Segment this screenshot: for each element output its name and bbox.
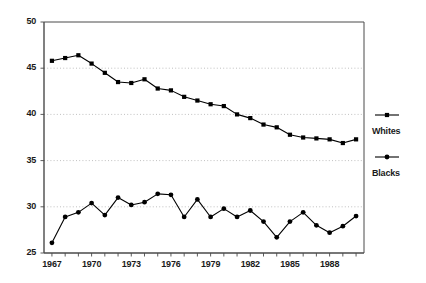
point-whites-1975 [156, 86, 160, 90]
point-blacks-1970 [89, 201, 94, 206]
point-whites-1970 [90, 61, 94, 65]
chart-figure: 253035404550 196719701973197619791982198… [0, 0, 426, 283]
y-axis-label-40: 40 [8, 108, 36, 118]
point-blacks-1982 [248, 208, 253, 213]
point-whites-1973 [129, 81, 133, 85]
point-whites-1972 [116, 80, 120, 84]
point-whites-1990 [354, 137, 358, 141]
point-blacks-1990 [354, 214, 359, 219]
x-axis-label-1973: 1973 [111, 259, 151, 269]
point-blacks-1977 [182, 215, 187, 220]
point-blacks-1968 [63, 215, 68, 220]
x-axis-label-1985: 1985 [270, 259, 310, 269]
point-whites-1982 [248, 116, 252, 120]
legend-label-whites: Whites [372, 126, 400, 136]
point-whites-1968 [63, 56, 67, 60]
point-whites-1974 [142, 77, 146, 81]
point-blacks-1979 [208, 215, 213, 220]
series-line-whites [50, 53, 358, 145]
point-whites-1989 [341, 141, 345, 145]
point-whites-1978 [195, 98, 199, 102]
point-whites-1980 [222, 104, 226, 108]
point-blacks-1971 [102, 213, 107, 218]
y-axis-label-45: 45 [8, 62, 36, 72]
point-blacks-1969 [76, 210, 81, 215]
circle-marker-icon [385, 155, 390, 160]
y-axis-label-25: 25 [8, 247, 36, 257]
point-whites-1983 [261, 122, 265, 126]
x-axis-label-1988: 1988 [310, 259, 350, 269]
x-axis-label-1982: 1982 [230, 259, 270, 269]
point-whites-1987 [314, 136, 318, 140]
point-blacks-1972 [116, 195, 121, 200]
point-blacks-1988 [327, 230, 332, 235]
point-blacks-1976 [169, 192, 174, 197]
point-whites-1988 [328, 137, 332, 141]
point-whites-1976 [169, 88, 173, 92]
y-axis-label-35: 35 [8, 155, 36, 165]
point-whites-1986 [301, 135, 305, 139]
polyline-blacks [52, 194, 356, 243]
x-axis-label-1979: 1979 [191, 259, 231, 269]
point-blacks-1986 [301, 210, 306, 215]
y-axis-label-50: 50 [8, 16, 36, 26]
point-blacks-1985 [288, 219, 293, 224]
point-blacks-1967 [50, 240, 55, 245]
point-whites-1969 [76, 53, 80, 57]
point-blacks-1973 [129, 203, 134, 208]
point-whites-1977 [182, 95, 186, 99]
line-chart-plot [0, 0, 426, 283]
legend-markers [375, 113, 399, 160]
point-blacks-1978 [195, 197, 200, 202]
point-whites-1984 [275, 125, 279, 129]
point-blacks-1987 [314, 223, 319, 228]
point-blacks-1984 [274, 235, 279, 240]
legend-label-blacks: Blacks [372, 168, 400, 178]
point-whites-1967 [50, 59, 54, 63]
x-axis-label-1976: 1976 [151, 259, 191, 269]
point-whites-1981 [235, 112, 239, 116]
x-axis-label-1967: 1967 [32, 259, 72, 269]
series-line-blacks [50, 191, 359, 245]
square-marker-icon [385, 113, 389, 117]
point-blacks-1983 [261, 219, 266, 224]
point-blacks-1981 [235, 215, 240, 220]
x-axis-label-1970: 1970 [72, 259, 112, 269]
point-blacks-1975 [155, 191, 160, 196]
y-axis-label-30: 30 [8, 201, 36, 211]
point-blacks-1980 [221, 206, 226, 211]
point-whites-1985 [288, 133, 292, 137]
point-whites-1971 [103, 71, 107, 75]
point-blacks-1989 [340, 224, 345, 229]
point-whites-1979 [209, 102, 213, 106]
point-blacks-1974 [142, 200, 147, 205]
